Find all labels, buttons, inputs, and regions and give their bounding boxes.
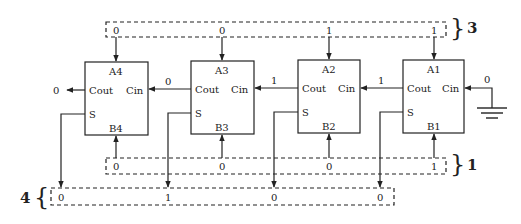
carry-in-initial-value: 0	[484, 74, 490, 85]
svg-text:B2: B2	[322, 121, 336, 132]
full-adder-a2: A2 Cout Cin S B2	[298, 60, 360, 133]
s4-output-value: 0	[58, 192, 64, 203]
a2-input-value: 1	[326, 25, 332, 36]
svg-text:Cout: Cout	[89, 85, 113, 96]
b-input-group-box	[106, 158, 446, 174]
svg-text:S: S	[89, 109, 96, 120]
svg-text:Cout: Cout	[407, 83, 431, 94]
carry-a1-a2-value: 1	[378, 75, 384, 86]
svg-text:Cout: Cout	[195, 84, 219, 95]
a1-input-value: 1	[431, 25, 437, 36]
ground-icon	[477, 108, 507, 118]
svg-text:S: S	[302, 107, 309, 118]
carry-a2-a3-value: 1	[271, 75, 277, 86]
svg-text:B3: B3	[215, 122, 229, 133]
svg-text:S: S	[407, 107, 414, 118]
svg-text:A3: A3	[214, 65, 229, 76]
sum-output-group-box	[51, 188, 394, 205]
svg-text:B1: B1	[427, 121, 441, 132]
svg-text:A1: A1	[426, 64, 441, 75]
ripple-adder-diagram: 0 0 1 1 } 3 A4 Cout Cin S B4 A3 Cout Cin…	[0, 0, 521, 224]
carry-a3-a4-value: 0	[165, 76, 171, 87]
sum-group-label: 4	[20, 189, 30, 207]
full-adder-a1: A1 Cout Cin S B1	[403, 60, 464, 133]
b-group-brace: }	[450, 150, 465, 178]
s1-output-value: 0	[377, 192, 383, 203]
svg-text:Cin: Cin	[231, 84, 249, 95]
full-adder-a3: A3 Cout Cin S B3	[191, 61, 254, 134]
svg-text:A2: A2	[321, 64, 336, 75]
sum-group-brace: {	[34, 183, 49, 211]
a4-input-value: 0	[113, 25, 119, 36]
svg-text:Cin: Cin	[126, 85, 144, 96]
svg-text:Cin: Cin	[338, 83, 356, 94]
b1-input-value: 1	[431, 161, 437, 172]
svg-text:S: S	[195, 108, 202, 119]
svg-text:B4: B4	[109, 123, 123, 134]
s2-output-value: 0	[271, 192, 277, 203]
svg-text:Cout: Cout	[302, 83, 326, 94]
a3-input-value: 0	[219, 25, 225, 36]
svg-text:A4: A4	[108, 66, 123, 77]
s3-output-value: 1	[165, 192, 171, 203]
a-input-group-box	[106, 22, 446, 37]
svg-text:Cin: Cin	[442, 83, 460, 94]
a-group-label: 3	[467, 19, 477, 37]
final-carry-out-value: 0	[53, 85, 59, 96]
b3-input-value: 0	[219, 161, 225, 172]
b-group-label: 1	[467, 156, 477, 174]
b4-input-value: 0	[113, 161, 119, 172]
a-group-brace: }	[450, 14, 465, 42]
b2-input-value: 0	[326, 161, 332, 172]
full-adder-a4: A4 Cout Cin S B4	[85, 62, 148, 135]
